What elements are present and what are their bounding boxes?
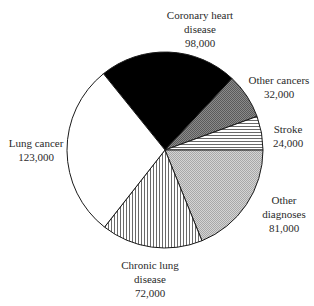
label-value: 32,000 bbox=[246, 87, 312, 101]
label-stroke: Stroke 24,000 bbox=[266, 122, 310, 150]
label-text: diagnoses bbox=[256, 207, 312, 221]
label-value: 123,000 bbox=[4, 150, 68, 164]
pie-slices bbox=[67, 52, 263, 248]
label-text: Lung cancer bbox=[4, 136, 68, 150]
label-value: 98,000 bbox=[150, 36, 250, 50]
label-text: Other bbox=[256, 193, 312, 207]
label-text: Coronary heart bbox=[150, 8, 250, 22]
label-text: disease bbox=[110, 272, 190, 286]
label-other-cancers: Other cancers 32,000 bbox=[246, 73, 312, 101]
label-value: 72,000 bbox=[110, 286, 190, 300]
label-value: 81,000 bbox=[256, 221, 312, 235]
label-value: 24,000 bbox=[266, 136, 310, 150]
label-chronic-lung-disease: Chronic lung disease 72,000 bbox=[110, 258, 190, 300]
label-other-diagnoses: Other diagnoses 81,000 bbox=[256, 193, 312, 235]
label-text: Chronic lung bbox=[110, 258, 190, 272]
label-text: Stroke bbox=[266, 122, 310, 136]
label-text: Other cancers bbox=[246, 73, 312, 87]
label-coronary-heart-disease: Coronary heart disease 98,000 bbox=[150, 8, 250, 50]
label-text: disease bbox=[150, 22, 250, 36]
label-lung-cancer: Lung cancer 123,000 bbox=[4, 136, 68, 164]
